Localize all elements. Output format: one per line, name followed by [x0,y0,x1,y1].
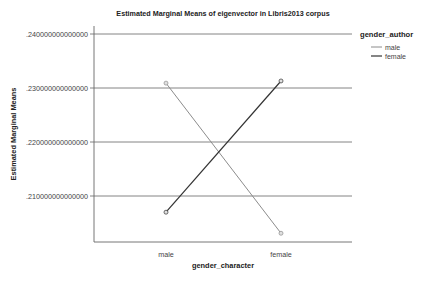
data-point [279,231,283,235]
data-point [164,210,168,214]
x-axis-ticks: malefemale [158,250,292,259]
data-series [164,79,283,235]
legend-label-male: male [385,44,400,51]
y-axis-title: Estimated Marginal Means [9,88,18,181]
data-point [164,81,168,85]
series-line-female [166,81,281,212]
y-axis-ticks: .240000000000000.230000000000000.2200000… [26,30,94,201]
legend-label-female: female [385,53,406,60]
y-tick-label: .210000000000000 [26,192,88,201]
chart-title: Estimated Marginal Means of eigenvector … [116,9,329,18]
data-point [279,79,283,83]
x-tick-label: male [158,250,174,259]
x-axis-title: gender_character [192,261,254,270]
legend-title: gender_author [360,30,413,39]
y-tick-label: .230000000000000 [26,84,88,93]
legend: gender_author malefemale [360,30,413,60]
chart: Estimated Marginal Means of eigenvector … [0,0,425,283]
x-tick-label: female [270,250,292,259]
grid-lines [94,34,352,196]
series-line-male [166,83,281,233]
y-tick-label: .220000000000000 [26,138,88,147]
y-tick-label: .240000000000000 [26,30,88,39]
